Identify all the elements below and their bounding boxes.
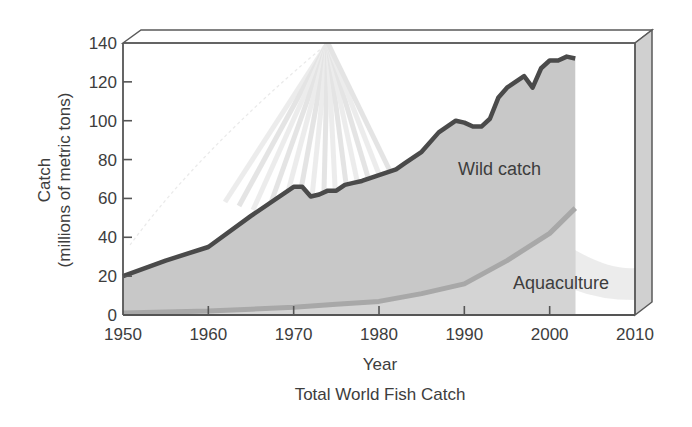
x-tick-label: 2000 — [531, 325, 569, 344]
y-tick-label: 40 — [98, 228, 117, 247]
y-axis-title: Catch — [35, 158, 54, 202]
x-axis-title: Year — [363, 355, 398, 374]
aquaculture-label: Aquaculture — [513, 273, 609, 293]
fish-catch-chart: 0204060801001201401950196019701980199020… — [0, 0, 692, 427]
chart-title: Total World Fish Catch — [295, 385, 466, 404]
y-tick-label: 60 — [98, 189, 117, 208]
box-top-face — [123, 30, 652, 43]
y-tick-label: 120 — [89, 73, 117, 92]
y-tick-label: 20 — [98, 267, 117, 286]
x-tick-label: 2010 — [616, 325, 654, 344]
x-tick-label: 1980 — [360, 325, 398, 344]
x-tick-label: 1970 — [275, 325, 313, 344]
wild-catch-label: Wild catch — [458, 159, 541, 179]
y-tick-label: 80 — [98, 151, 117, 170]
y-tick-label: 0 — [108, 306, 117, 325]
y-axis-subtitle: (millions of metric tons) — [55, 93, 74, 268]
x-tick-label: 1990 — [445, 325, 483, 344]
y-tick-label: 140 — [89, 34, 117, 53]
box-side-face — [635, 30, 652, 315]
x-tick-label: 1950 — [104, 325, 142, 344]
y-tick-label: 100 — [89, 112, 117, 131]
x-tick-label: 1960 — [189, 325, 227, 344]
